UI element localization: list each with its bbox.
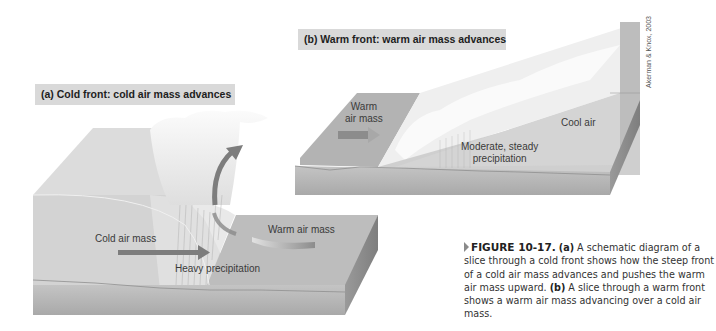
image-credit: Akerman & Knox, 2003: [645, 16, 652, 88]
precip-line1: Moderate, steady: [461, 141, 538, 153]
precip-line2: precipitation: [461, 153, 538, 165]
cold-air-mass-label: Cold air mass: [95, 233, 156, 245]
cool-air-label: Cool air: [561, 117, 595, 129]
warm-air-mass-label-a: Warm air mass: [268, 224, 335, 236]
figure-number: FIGURE 10-17.: [471, 241, 556, 253]
heavy-precipitation-label: Heavy precipitation: [175, 263, 260, 275]
caption-marker-icon: [464, 242, 469, 252]
panel-a-title: (a) Cold front: cold air mass advances: [35, 84, 235, 105]
warm-air-mass-line2: air mass: [345, 113, 383, 125]
caption-part-a-label: (a): [559, 242, 574, 253]
moderate-precipitation-label: Moderate, steady precipitation: [461, 141, 538, 165]
caption-part-b-label: (b): [550, 282, 566, 293]
warm-air-mass-line1: Warm: [345, 101, 383, 113]
panel-b-title: (b) Warm front: warm air mass advances: [298, 29, 506, 50]
warm-air-mass-label-b: Warm air mass: [345, 101, 383, 125]
figure-caption: FIGURE 10-17. (a) A schematic diagram of…: [464, 241, 716, 321]
